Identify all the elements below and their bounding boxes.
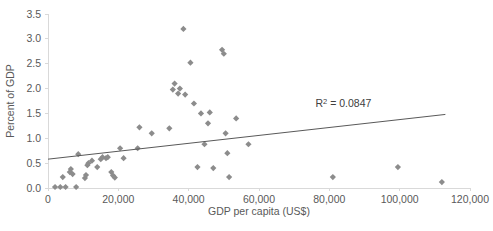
data-point xyxy=(94,164,100,170)
y-axis-title: Percent of GDP xyxy=(4,64,16,138)
data-point xyxy=(180,26,186,32)
trendline xyxy=(48,114,445,159)
y-tick-label: 1.5 xyxy=(26,107,41,119)
data-point xyxy=(330,174,336,180)
r-squared-annotation: R2 = 0.0847 xyxy=(315,97,371,110)
data-point xyxy=(222,130,228,136)
data-point xyxy=(52,184,58,190)
x-axis-group: 020,00040,00060,00080,000100,000120,000 xyxy=(45,188,489,205)
data-point xyxy=(182,91,188,97)
data-point xyxy=(205,120,211,126)
y-tick-label: 0.5 xyxy=(26,157,41,169)
data-point xyxy=(121,155,127,161)
data-point-group xyxy=(52,26,445,190)
data-point xyxy=(226,174,232,180)
x-tick-label: 60,000 xyxy=(243,193,275,205)
data-point xyxy=(245,141,251,147)
data-point xyxy=(233,115,239,121)
x-tick-label-group: 020,00040,00060,00080,000100,000120,000 xyxy=(45,193,489,205)
y-tick-label: 2.5 xyxy=(26,57,41,69)
data-point xyxy=(73,184,79,190)
data-point xyxy=(191,100,197,106)
data-point xyxy=(395,164,401,170)
data-point xyxy=(149,130,155,136)
x-tick-label: 80,000 xyxy=(313,193,345,205)
x-tick-label: 120,000 xyxy=(451,193,489,205)
data-point xyxy=(135,145,141,151)
chart-canvas: 0.00.51.01.52.02.53.03.5 020,00040,00060… xyxy=(0,0,493,231)
y-tick-label: 2.0 xyxy=(26,82,41,94)
data-point xyxy=(187,60,193,66)
x-axis-title: GDP per capita (US$) xyxy=(208,205,310,217)
y-tick-label-group: 0.00.51.01.52.02.53.03.5 xyxy=(26,8,41,194)
x-tick-label: 0 xyxy=(45,193,51,205)
x-tick-label: 40,000 xyxy=(173,193,205,205)
x-tick-label: 100,000 xyxy=(381,193,419,205)
data-point xyxy=(210,165,216,171)
scatter-chart: 0.00.51.01.52.02.53.03.5 020,00040,00060… xyxy=(0,0,493,231)
data-point xyxy=(175,90,181,96)
data-point xyxy=(62,184,68,190)
x-tick-label: 20,000 xyxy=(102,193,134,205)
data-point xyxy=(172,81,178,87)
data-point xyxy=(57,184,63,190)
data-point xyxy=(194,164,200,170)
y-tick-label: 3.0 xyxy=(26,32,41,44)
data-point xyxy=(224,150,230,156)
data-point xyxy=(177,85,183,91)
data-point xyxy=(198,110,204,116)
data-point xyxy=(166,125,172,131)
data-point xyxy=(207,109,213,115)
data-point xyxy=(439,179,445,185)
y-tick-label: 0.0 xyxy=(26,182,41,194)
data-point xyxy=(60,174,66,180)
data-point xyxy=(136,124,142,130)
data-point xyxy=(170,86,176,92)
y-tick-label: 3.5 xyxy=(26,8,41,20)
y-axis-group: 0.00.51.01.52.02.53.03.5 xyxy=(26,8,48,194)
y-tick-label: 1.0 xyxy=(26,132,41,144)
